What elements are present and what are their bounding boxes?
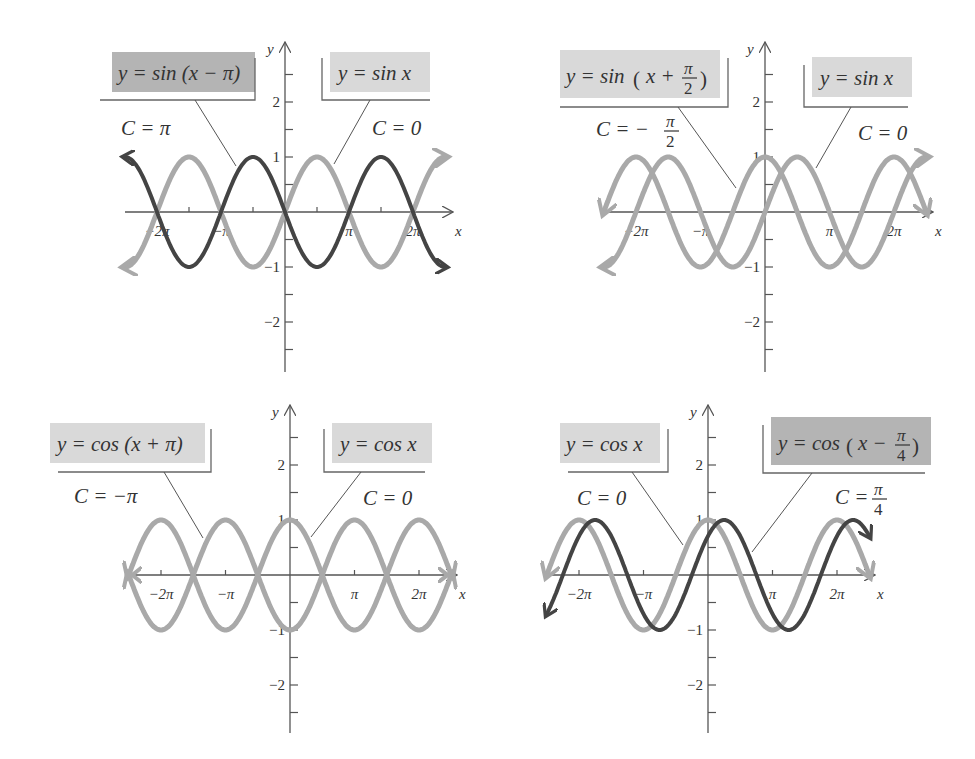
y-tick-label: 2 xyxy=(696,457,704,473)
y-tick-label: 1 xyxy=(273,149,281,165)
fraction-denominator: 4 xyxy=(874,500,883,519)
label-cos-x: y = cos x C = 0 xyxy=(560,423,683,545)
y-tick-label: −1 xyxy=(744,259,760,275)
y-tick-label: −2 xyxy=(269,677,285,693)
fraction-numerator: π xyxy=(684,59,693,78)
x-tick-label: π xyxy=(351,586,359,602)
fraction-denominator: 4 xyxy=(897,446,906,465)
equation-prefix: y = sin xyxy=(564,64,625,88)
x-tick-label: π xyxy=(769,586,777,602)
x-tick-label: 2π xyxy=(829,586,845,602)
panel-cos-shift-neg-pi: y = cos (x + π) C = −π y = cos x C = 0 −… xyxy=(50,404,466,733)
c-value-label: C = 0 xyxy=(577,486,627,510)
c-value-prefix: C = − xyxy=(596,117,649,141)
y-tick-label: −2 xyxy=(687,677,703,693)
paren-left: ( xyxy=(633,67,640,91)
figure: y = sin (x − π) C = π y = sin x C = 0 −2… xyxy=(0,0,975,759)
label-sin-x: y = sin x C = 0 xyxy=(804,57,912,168)
c-value-prefix: C = xyxy=(835,485,868,509)
x-tick-label: −2π xyxy=(148,586,174,602)
y-tick-label: −1 xyxy=(687,622,703,638)
y-axis-label: y xyxy=(688,404,697,420)
equation-x: x + xyxy=(645,64,675,88)
equation-label: y = cos x xyxy=(338,432,417,456)
equation-label: y = sin (x − π) xyxy=(116,61,240,85)
c-value-label: C = 0 xyxy=(372,116,422,140)
label-cos-x-plus-pi: y = cos (x + π) C = −π xyxy=(50,423,211,538)
equation-label: y = sin x xyxy=(818,66,894,90)
x-tick-label: 2π xyxy=(411,586,427,602)
x-tick-label: −π xyxy=(217,586,235,602)
y-tick-label: −1 xyxy=(264,259,280,275)
paren-right: ) xyxy=(700,67,707,91)
x-axis-label: x xyxy=(454,223,462,239)
y-tick-label: 2 xyxy=(753,94,761,110)
c-value-label: C = 0 xyxy=(858,121,908,145)
y-tick-label: −2 xyxy=(264,314,280,330)
y-tick-label: 2 xyxy=(273,94,281,110)
panel-cos-shift-quarter-pi: y = cos x C = 0 y = cos ( x − π 4 ) C = … xyxy=(547,404,931,733)
y-axis-label: y xyxy=(265,41,274,57)
x-axis-label: x xyxy=(876,586,884,602)
c-value-label: C = 0 xyxy=(363,486,413,510)
fraction-numerator: π xyxy=(874,480,883,499)
panel-sin-shift-pi: y = sin (x − π) C = π y = sin x C = 0 −2… xyxy=(100,41,462,372)
equation-label: y = cos x xyxy=(564,432,643,456)
equation-label: y = sin x xyxy=(336,61,412,85)
fraction-denominator: 2 xyxy=(684,79,693,98)
equation-label: y = cos (x + π) xyxy=(55,432,183,456)
fraction-numerator: π xyxy=(897,426,906,445)
paren-left: ( xyxy=(846,434,853,458)
y-axis-label: y xyxy=(745,41,754,57)
x-tick-label: −2π xyxy=(566,586,592,602)
x-axis-label: x xyxy=(934,223,942,239)
c-value-label: C = −π xyxy=(74,484,138,508)
equation-x: x − xyxy=(857,431,887,455)
paren-right: ) xyxy=(912,434,919,458)
y-tick-label: 2 xyxy=(278,457,286,473)
label-sin-x: y = sin x C = 0 xyxy=(322,52,430,164)
y-tick-label: −2 xyxy=(744,314,760,330)
x-axis-label: x xyxy=(458,586,466,602)
fraction-denominator: 2 xyxy=(666,132,675,151)
equation-prefix: y = cos xyxy=(776,431,840,455)
fraction-numerator: π xyxy=(666,112,675,131)
y-axis-label: y xyxy=(270,404,279,420)
panel-sin-shift-neg-half-pi: y = sin ( x + π 2 ) C = − π 2 y = sin x … xyxy=(560,41,942,372)
label-sin-x-minus-pi: y = sin (x − π) C = π xyxy=(100,52,255,166)
c-value-label: C = π xyxy=(121,116,171,140)
